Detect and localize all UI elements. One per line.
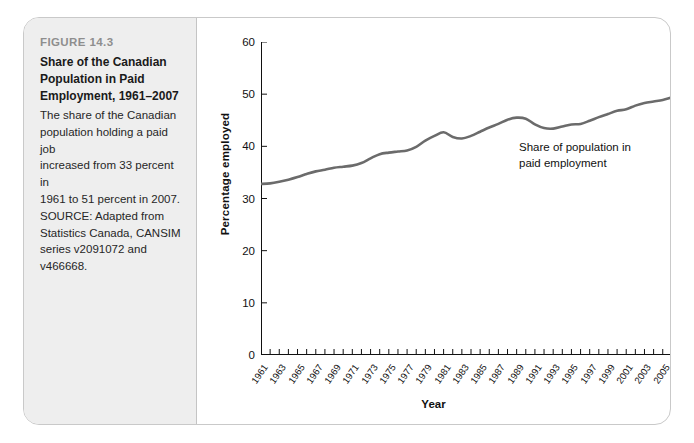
y-axis-tick-label: 50 xyxy=(242,88,255,100)
x-axis-tick-label: 2001 xyxy=(614,362,635,386)
x-axis-title: Year xyxy=(197,398,670,410)
y-axis-tick-label: 0 xyxy=(249,349,255,361)
y-axis-tick-label: 30 xyxy=(242,193,255,205)
axis-ticks xyxy=(261,42,671,355)
x-axis-tick-label: 2005 xyxy=(651,362,671,386)
x-axis-tick-label: 1997 xyxy=(578,362,599,386)
figure-source-line: v466668. xyxy=(40,258,184,275)
y-axis-tick-label: 10 xyxy=(242,297,255,309)
annotation-line: Share of population in xyxy=(519,139,669,155)
x-axis-tick-label: 1991 xyxy=(523,362,544,386)
figure-source-line: SOURCE: Adapted from xyxy=(40,208,184,225)
x-axis-tick-label: 2003 xyxy=(632,362,653,386)
series-annotation: Share of population in paid employment xyxy=(519,139,669,171)
x-axis-tick-label: 1963 xyxy=(267,362,288,386)
x-axis-tick-label: 1969 xyxy=(322,362,343,386)
figure-description-line: 1961 to 51 percent in 2007. xyxy=(40,191,184,208)
chart-svg xyxy=(261,42,671,355)
figure-description-line: population holding a paid job xyxy=(40,124,184,158)
annotation-line: paid employment xyxy=(519,155,669,171)
figure-description-line: increased from 33 percent in xyxy=(40,157,184,191)
caption-panel: FIGURE 14.3 Share of the Canadian Popula… xyxy=(24,18,197,424)
figure-source-line: series v2091072 and xyxy=(40,241,184,258)
x-axis-tick-label: 1965 xyxy=(285,362,306,386)
figure-source-line: Statistics Canada, CANSIM xyxy=(40,225,184,242)
y-axis-tick-label: 60 xyxy=(242,36,255,48)
figure-title: Share of the Canadian Population in Paid… xyxy=(40,54,184,105)
figure-title-line: Share of the Canadian xyxy=(40,55,167,69)
x-axis-tick-label: 1981 xyxy=(431,362,452,386)
x-axis-tick-label: 1975 xyxy=(377,362,398,386)
figure-card: FIGURE 14.3 Share of the Canadian Popula… xyxy=(23,17,671,425)
x-axis-tick-label: 1993 xyxy=(541,362,562,386)
plot-area: 0102030405060 19611963196519671969197119… xyxy=(261,42,671,355)
x-axis-tick-label: 1999 xyxy=(596,362,617,386)
caption-text-block: FIGURE 14.3 Share of the Canadian Popula… xyxy=(40,36,184,275)
y-axis-tick-label: 40 xyxy=(242,140,255,152)
x-axis-tick-label: 1971 xyxy=(340,362,361,386)
y-axis-title: Percentage employed xyxy=(219,94,231,254)
x-axis-tick-label: 1977 xyxy=(395,362,416,386)
x-axis-tick-label: 1967 xyxy=(304,362,325,386)
figure-description-line: The share of the Canadian xyxy=(40,107,184,124)
x-axis-tick-label: 1973 xyxy=(358,362,379,386)
chart-panel: Percentage employed 0102030405060 196119… xyxy=(197,18,670,424)
x-axis-tick-label: 1983 xyxy=(450,362,471,386)
y-axis-tick-label: 20 xyxy=(242,245,255,257)
x-axis-tick-label: 1989 xyxy=(505,362,526,386)
x-axis-tick-label: 1985 xyxy=(468,362,489,386)
x-axis-tick-label: 1979 xyxy=(413,362,434,386)
figure-number: FIGURE 14.3 xyxy=(40,36,184,48)
x-axis-tick-label: 1961 xyxy=(249,362,270,386)
x-axis-tick-label: 1987 xyxy=(486,362,507,386)
figure-title-line: Employment, 1961–2007 xyxy=(40,89,179,103)
figure-title-line: Population in Paid xyxy=(40,72,145,86)
x-axis-tick-label: 1995 xyxy=(559,362,580,386)
figure-description: The share of the Canadian population hol… xyxy=(40,107,184,275)
